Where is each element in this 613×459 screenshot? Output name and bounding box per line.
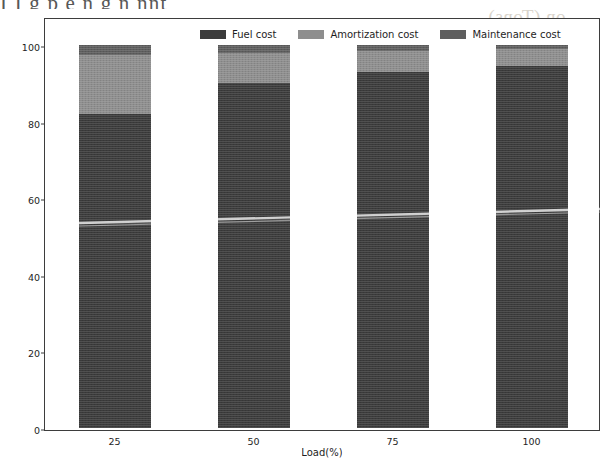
legend-label-amortization: Amortization cost: [330, 29, 418, 40]
bar-segment-fuel-cost[interactable]: [496, 66, 568, 428]
chart-figure: Share of the total cost (%) Fuel cost Am…: [0, 0, 613, 459]
bar-texture-overlay: [79, 55, 151, 114]
legend-label-maintenance: Maintenance cost: [472, 29, 560, 40]
bar-segment-fuel-cost[interactable]: [79, 114, 151, 428]
x-axis-label: Load(%): [301, 447, 342, 459]
bar-texture-overlay: [357, 72, 429, 428]
bar-texture-overlay: [79, 114, 151, 428]
legend-swatch-fuel-icon: [200, 30, 226, 39]
bar-texture-overlay: [218, 83, 290, 428]
legend-item-maintenance[interactable]: Maintenance cost: [440, 29, 560, 40]
bar-segment-amortization-cost[interactable]: [496, 49, 568, 66]
bar-texture-overlay: [496, 49, 568, 66]
bar-segment-fuel-cost[interactable]: [218, 83, 290, 428]
bar-segment-maintenance-cost[interactable]: [218, 45, 290, 53]
bar-segment-maintenance-cost[interactable]: [79, 45, 151, 55]
bar-100[interactable]: [496, 45, 568, 428]
bar-segment-amortization-cost[interactable]: [218, 53, 290, 84]
plot-area: Fuel cost Amortization cost Maintenance …: [44, 18, 600, 431]
legend-swatch-maintenance-icon: [440, 30, 466, 39]
bar-texture-overlay: [496, 45, 568, 49]
bar-75[interactable]: [357, 45, 429, 428]
x-tick-label-100: 100: [522, 430, 540, 447]
bar-texture-overlay: [496, 66, 568, 428]
bar-segment-amortization-cost[interactable]: [357, 51, 429, 72]
legend-swatch-amortization-icon: [298, 30, 324, 39]
legend-item-fuel[interactable]: Fuel cost: [200, 29, 276, 40]
legend-item-amortization[interactable]: Amortization cost: [298, 29, 418, 40]
bar-segment-amortization-cost[interactable]: [79, 55, 151, 114]
bar-segment-fuel-cost[interactable]: [357, 72, 429, 428]
bar-segment-maintenance-cost[interactable]: [357, 45, 429, 51]
bar-texture-overlay: [79, 45, 151, 55]
bar-texture-overlay: [357, 45, 429, 51]
bar-series-container: [45, 19, 599, 430]
bar-texture-overlay: [218, 53, 290, 84]
legend-label-fuel: Fuel cost: [232, 29, 276, 40]
bar-texture-overlay: [218, 45, 290, 53]
bar-50[interactable]: [218, 45, 290, 428]
x-tick-label-25: 25: [108, 430, 120, 447]
x-tick-label-75: 75: [386, 430, 398, 447]
x-tick-label-50: 50: [247, 430, 259, 447]
bar-25[interactable]: [79, 45, 151, 428]
chart-legend: Fuel cost Amortization cost Maintenance …: [200, 29, 561, 40]
bar-segment-maintenance-cost[interactable]: [496, 45, 568, 49]
bar-texture-overlay: [357, 51, 429, 72]
